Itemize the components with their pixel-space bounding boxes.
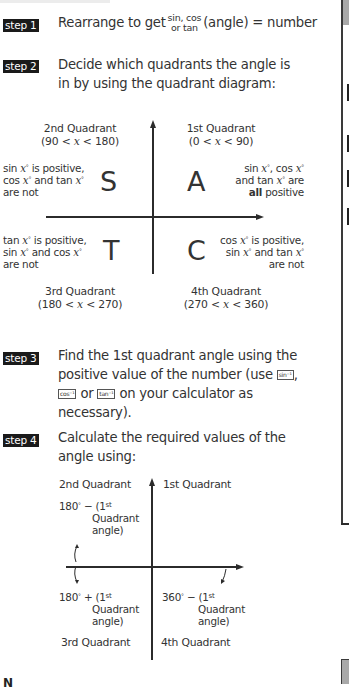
step-1-text-after: (angle) = number <box>203 15 317 30</box>
cast-q3-heading: 3rd Quadrant (180 < x < 270) <box>30 285 130 311</box>
cast-q1-range: (0 < x < 90) <box>178 135 264 148</box>
cast-q1-description: sin x°, cos x° and tan x° are all positi… <box>222 162 304 198</box>
angle-q2-title: 2nd Quadrant <box>59 479 131 491</box>
step-1-text-before: Rearrange to get <box>58 15 166 30</box>
tan-inverse-key-icon: tan⁻¹ <box>97 389 115 399</box>
angle-arrow-up-icon <box>149 478 155 486</box>
angle-q1-title: 1st Quadrant <box>163 479 231 491</box>
cast-q4-heading: 4th Quadrant (270 < x < 360) <box>176 285 276 311</box>
step-3-line-4: necessary). <box>58 403 342 422</box>
angle-q3-formula: 180° + (1st Quadrant angle) <box>59 591 139 627</box>
cast-q2-range: (90 < x < 180) <box>30 135 130 148</box>
cast-q3-title: 3rd Quadrant <box>30 285 130 298</box>
step-3-text: Find the 1st quadrant angle using the po… <box>58 346 342 422</box>
cast-letter-c: C <box>187 236 206 266</box>
cast-q1-title: 1st Quadrant <box>178 122 264 135</box>
cast-vertical-axis <box>152 126 154 274</box>
step-4-text: Calculate the required values of the ang… <box>58 428 342 466</box>
step-3-line-1: Find the 1st quadrant angle using the <box>58 346 342 365</box>
cast-q2-heading: 2nd Quadrant (90 < x < 180) <box>30 122 130 148</box>
cast-letter-t: T <box>103 236 120 266</box>
step-4-line-1: Calculate the required values of the <box>58 428 342 447</box>
cast-q3-range: (180 < x < 270) <box>30 298 130 311</box>
cos-inverse-key-icon: cos⁻¹ <box>58 389 76 399</box>
cast-q4-title: 4th Quadrant <box>176 285 276 298</box>
page-top-fade <box>0 0 110 3</box>
cast-q4-range: (270 < x < 360) <box>176 298 276 311</box>
step-3-line-3: cos⁻¹ or tan⁻¹ on your calculator as <box>58 384 342 403</box>
cast-horizontal-axis <box>46 216 258 218</box>
step-1-badge: step 1 <box>3 19 39 32</box>
angle-horizontal-axis <box>66 566 238 568</box>
cast-q4-description: cos x° is positive, sin x° and tan x° ar… <box>210 234 304 270</box>
step-4-badge: step 4 <box>3 434 39 447</box>
trig-fraction: sin, cosor tan <box>168 13 202 33</box>
step-2-badge: step 2 <box>3 60 39 73</box>
step-2-text: Decide which quadrants the angle is in b… <box>58 55 290 93</box>
step-1-text: Rearrange to getsin, cosor tan(angle) = … <box>58 13 317 33</box>
step-3-line-2: positive value of the number (use sin⁻¹, <box>58 365 342 384</box>
cast-arrow-right-icon <box>256 214 264 220</box>
cast-q2-title: 2nd Quadrant <box>30 122 130 135</box>
angle-q2-formula: 180° − (1st Quadrant angle) <box>59 500 139 536</box>
fraction-bottom: or tan <box>171 22 198 33</box>
step-3-badge: step 3 <box>3 352 39 365</box>
sin-inverse-key-icon: sin⁻¹ <box>277 370 294 380</box>
q4-curved-arrow-icon <box>219 568 229 586</box>
step-2-line-1: Decide which quadrants the angle is <box>58 55 290 74</box>
adjacent-gray-box <box>341 659 349 684</box>
angle-q3-title: 3rd Quadrant <box>61 637 130 649</box>
cast-arrow-up-icon <box>150 120 156 128</box>
adjacent-box-border <box>341 0 343 524</box>
note-heading-partial: N <box>3 676 13 690</box>
adjacent-box-bottom <box>341 523 349 525</box>
cast-q3-description: tan x° is positive, sin x° and cos x° ar… <box>3 234 93 270</box>
angle-arrow-right-icon <box>236 564 244 570</box>
angle-q4-title: 4th Quadrant <box>161 637 230 649</box>
step-4-line-2: angle using: <box>58 447 342 466</box>
angle-vertical-axis <box>151 484 153 660</box>
cast-q1-heading: 1st Quadrant (0 < x < 90) <box>178 122 264 148</box>
cast-letter-a: A <box>187 167 205 197</box>
cast-q2-description: sin x° is positive, cos x° and tan x° ar… <box>3 162 93 198</box>
adjacent-gray-header <box>342 0 349 25</box>
cast-letter-s: S <box>100 167 117 197</box>
reflection-arrows-icon <box>68 542 84 586</box>
step-2-line-2: in by using the quadrant diagram: <box>58 74 290 93</box>
angle-q4-formula: 360° − (1st Quadrant angle) <box>162 591 245 627</box>
